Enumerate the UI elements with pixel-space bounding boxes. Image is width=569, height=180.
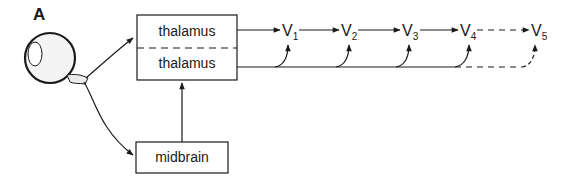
- parallel-to-v2-arrow: [336, 45, 349, 67]
- parallel-to-v4-arrow: [455, 45, 469, 67]
- eye-to-thalamus-arrow: [86, 38, 133, 78]
- svg-text:V4: V4: [460, 22, 477, 42]
- thalamus-box: thalamus thalamus: [137, 15, 237, 80]
- midbrain-box: midbrain: [136, 142, 228, 173]
- svg-text:V5: V5: [531, 22, 548, 42]
- thalamus-top-label: thalamus: [159, 23, 216, 39]
- eye-to-midbrain-arrow: [84, 82, 133, 155]
- parallel-to-v3-arrow: [396, 45, 409, 67]
- visual-area-v3: V3: [402, 22, 419, 42]
- parallel-to-v5-arrow: [522, 45, 535, 67]
- visual-area-v1: V1: [282, 22, 299, 42]
- panel-label: A: [33, 5, 45, 24]
- eye-icon: [25, 33, 88, 84]
- svg-text:V1: V1: [282, 22, 299, 42]
- visual-pathway-diagram: A thalamus thalamus midbrain V1 V2 V3 V4: [0, 0, 569, 180]
- parallel-to-v1-arrow: [275, 45, 288, 67]
- visual-area-v4: V4: [460, 22, 477, 42]
- visual-area-v5: V5: [531, 22, 548, 42]
- visual-area-v2: V2: [341, 22, 358, 42]
- svg-text:V3: V3: [402, 22, 419, 42]
- svg-text:V2: V2: [341, 22, 358, 42]
- thalamus-bottom-label: thalamus: [159, 55, 216, 71]
- midbrain-label: midbrain: [155, 149, 209, 165]
